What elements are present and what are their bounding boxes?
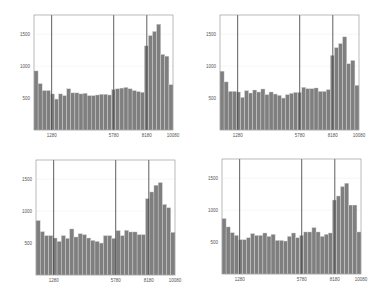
histogram-bar [353, 205, 357, 274]
histogram-bar [79, 94, 83, 130]
histogram-bar [238, 240, 242, 274]
histogram-bar [324, 234, 328, 274]
histogram-bar [269, 92, 273, 130]
histogram-bar [273, 94, 277, 130]
histogram-bar [326, 90, 330, 130]
x-tick-label: 5780 [109, 133, 120, 138]
histogram-bar [224, 82, 228, 130]
histogram-bar [306, 89, 310, 130]
histogram-bar [226, 227, 230, 274]
histogram-bar [95, 95, 99, 130]
x-tick-label: 10080 [355, 277, 368, 282]
plot-area: 5001000150012805780818010080 [34, 15, 173, 130]
histogram-bar [351, 60, 355, 130]
histogram-bar [267, 236, 271, 274]
histogram-bar [87, 96, 91, 130]
histogram-bar [158, 183, 162, 275]
x-tick-label: 8180 [330, 277, 341, 282]
histogram-bar [287, 236, 291, 274]
histogram-bar [136, 92, 140, 130]
histogram-bar [157, 24, 161, 130]
histogram-bar [296, 238, 300, 274]
histogram-bar [292, 233, 296, 274]
histogram-bar [150, 192, 154, 275]
histogram-bar [167, 208, 171, 275]
histogram-bar [108, 95, 112, 130]
histogram-bar [70, 229, 74, 275]
histogram-bar [137, 235, 141, 275]
histogram-bar [171, 232, 175, 275]
histogram-bar [153, 31, 157, 130]
histogram-bar [263, 233, 267, 274]
histogram-bar [44, 236, 48, 275]
histogram-bar [124, 87, 128, 130]
histogram-bar [316, 232, 320, 274]
histogram-bar [249, 93, 253, 130]
histogram-bar [320, 236, 324, 274]
y-tick-label: 1500 [20, 32, 31, 37]
histogram-bar [275, 240, 279, 274]
histogram-bar [154, 185, 158, 275]
histogram-bar [339, 44, 343, 130]
histogram-bar [95, 241, 99, 275]
y-tick-label: 500 [210, 240, 218, 245]
histogram-bar [261, 89, 265, 130]
x-tick-label: 5780 [297, 277, 308, 282]
y-tick-label: 1000 [208, 208, 219, 213]
histogram-bar [336, 196, 340, 274]
histogram-bar [328, 233, 332, 274]
histogram-bar [40, 232, 44, 275]
histogram-bar [355, 85, 359, 130]
histogram-bar [54, 99, 58, 130]
histogram-bar [46, 91, 50, 130]
histogram-bar [148, 36, 152, 130]
histogram-bar [247, 238, 251, 274]
y-tick-label: 500 [208, 96, 216, 101]
histogram-bar [108, 236, 112, 275]
histogram-bar [220, 71, 224, 130]
y-tick-label: 1000 [22, 209, 33, 214]
histogram-bar [232, 91, 236, 130]
histogram-bar [165, 56, 169, 130]
histogram-bar [57, 241, 61, 275]
histogram-bar [242, 240, 246, 274]
histogram-bar [99, 243, 103, 275]
y-tick-label: 1500 [22, 177, 33, 182]
histogram-bar [38, 84, 42, 130]
histogram-bar [347, 64, 351, 130]
histogram-bottom-left: 5001000150012805780818010080 [36, 160, 175, 275]
histogram-bar [251, 234, 255, 274]
histogram-bar [59, 94, 63, 130]
histogram-bar [128, 89, 132, 130]
histogram-bar [120, 236, 124, 275]
histogram-bar [87, 238, 91, 275]
histogram-bar [245, 91, 249, 130]
histogram-bar [349, 205, 353, 274]
x-tick-label: 1280 [47, 133, 58, 138]
histogram-bar [240, 97, 244, 130]
plot-area: 5001000150012805780818010080 [220, 15, 359, 130]
histogram-bar [50, 94, 54, 130]
histogram-bar [116, 89, 120, 130]
histogram-bar [132, 91, 136, 130]
histogram-bar [234, 235, 238, 274]
histogram-bar [345, 183, 349, 274]
x-tick-label: 10080 [353, 133, 366, 138]
histogram-bar [63, 96, 67, 130]
histogram-bar [124, 230, 128, 275]
histogram-bar [71, 93, 75, 130]
histogram-bar [283, 241, 287, 274]
histogram-bar [277, 95, 281, 130]
histogram-bar [308, 232, 312, 274]
histogram-bar [103, 236, 107, 275]
histogram-bar [91, 240, 95, 275]
histogram-bar [83, 93, 87, 130]
histogram-bar [222, 219, 226, 274]
x-tick-label: 5780 [295, 133, 306, 138]
histogram-bar [82, 235, 86, 275]
histogram-bar [161, 54, 165, 130]
histogram-bar [343, 37, 347, 130]
x-tick-label: 8180 [142, 133, 153, 138]
histogram-bar [310, 89, 314, 130]
histogram-bar [140, 92, 144, 130]
